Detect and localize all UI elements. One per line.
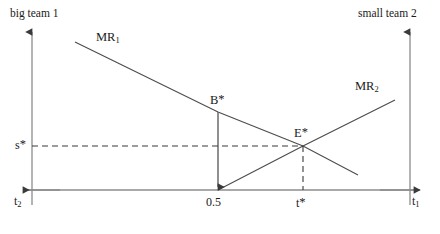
- mr2-curve: [218, 100, 395, 190]
- midpoint-tick-label: 0.5: [206, 196, 221, 208]
- t-star-mark: *: [299, 195, 305, 209]
- right-axis-title: small team 2: [358, 8, 417, 20]
- e-star-letter: E: [294, 126, 302, 140]
- mr2-label-subscript: 2: [374, 84, 378, 94]
- mr2-label-text: MR: [355, 79, 374, 93]
- mr1-curve: [75, 42, 358, 175]
- e-star-mark: *: [302, 125, 308, 139]
- s-star-mark: *: [20, 137, 26, 151]
- mr2-curve-label: MR2: [355, 80, 379, 94]
- s-star-axis-label: s*: [15, 138, 26, 151]
- b-star-mark: *: [218, 92, 224, 106]
- e-star-point-label: E*: [294, 126, 308, 140]
- b-star-point-label: B*: [210, 93, 225, 107]
- t2-axis-label: t2: [14, 195, 22, 209]
- t2-subscript: 2: [17, 199, 21, 209]
- left-axis-title: big team 1: [10, 8, 59, 20]
- mr1-label-text: MR: [96, 30, 115, 44]
- t1-axis-label: t1: [412, 195, 420, 209]
- mr1-label-subscript: 1: [115, 35, 119, 45]
- t-star-tick-label: t*: [296, 196, 306, 209]
- mr1-curve-label: MR1: [96, 31, 120, 45]
- economics-diagram: big team 1 small team 2 MR1 MR2 B* E* s*…: [0, 0, 440, 234]
- t1-subscript: 1: [415, 199, 419, 209]
